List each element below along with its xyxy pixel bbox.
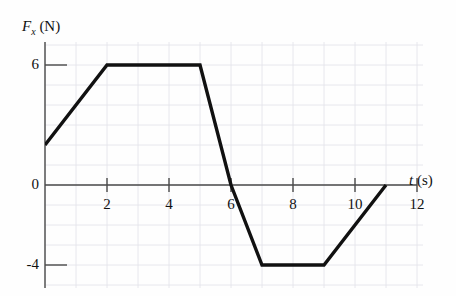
force-time-graph-figure: Fx (N) t (s) 2468101260-4 [0, 0, 456, 296]
x-tick-label: 8 [278, 196, 308, 213]
y-axis-symbol: F [22, 18, 31, 34]
y-tick-label: 0 [13, 176, 39, 193]
x-tick-label: 2 [92, 196, 122, 213]
x-tick-label: 6 [216, 196, 246, 213]
x-axis-title: t (s) [409, 172, 433, 189]
gridlines [45, 42, 423, 288]
x-axis-unit: (s) [413, 172, 433, 188]
x-tick-label: 12 [402, 196, 432, 213]
x-tick-label: 4 [154, 196, 184, 213]
x-tick-label: 10 [340, 196, 370, 213]
y-axis-title: Fx (N) [22, 18, 60, 37]
y-tick-label: 6 [13, 56, 39, 73]
y-tick-label: -4 [13, 256, 39, 273]
plot-area [0, 0, 456, 296]
y-axis-unit: (N) [36, 18, 61, 34]
